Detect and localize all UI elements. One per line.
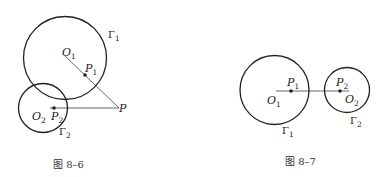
label-O2: O2 (345, 93, 359, 108)
label-P2: P2 (50, 110, 63, 125)
caption-fig-8-6: 图 8–6 (53, 159, 84, 170)
label-P1: P1 (84, 62, 97, 77)
label-P2: P2 (335, 76, 348, 91)
point-P1 (289, 89, 293, 93)
label-O1: O1 (267, 94, 281, 109)
diagram-canvas: Γ1 O1 P1 P O2 P2 Γ2 图 8–6 P1 O1 P2 O2 Γ1… (0, 0, 388, 177)
label-O2: O2 (32, 110, 46, 125)
label-P: P (118, 102, 127, 115)
figure-8-6: Γ1 O1 P1 P O2 P2 Γ2 图 8–6 (19, 17, 128, 171)
caption-fig-8-7: 图 8–7 (285, 156, 316, 167)
label-gamma1: Γ1 (108, 29, 120, 43)
label-gamma2: Γ2 (59, 126, 71, 140)
figure-8-7: P1 O1 P2 O2 Γ1 Γ2 图 8–7 (240, 56, 370, 168)
label-P1: P1 (286, 76, 299, 91)
label-gamma1: Γ1 (282, 125, 294, 139)
label-O1: O1 (62, 46, 76, 61)
point-P2 (338, 89, 342, 93)
label-gamma2: Γ2 (350, 115, 362, 129)
